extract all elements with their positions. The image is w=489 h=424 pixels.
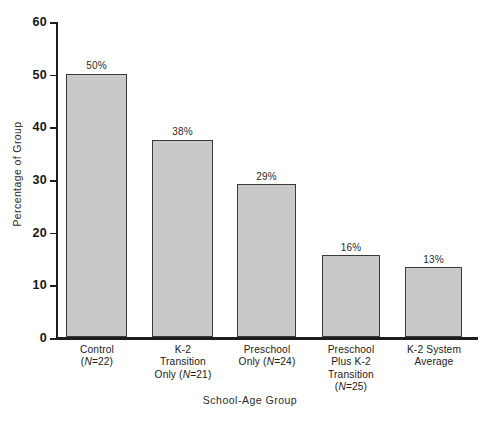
category-line: Transition — [305, 369, 397, 381]
category-line: Only (N=24) — [221, 356, 313, 368]
category-line: Preschool — [221, 344, 313, 356]
paren-rest: =24) — [274, 356, 295, 367]
category-line: (N=22) — [51, 356, 143, 368]
y-tick-0 — [50, 338, 56, 340]
category-label-preschool-plus-k2-transition: Preschool Plus K-2 Transition (N=25) — [305, 344, 397, 394]
y-tick-label-20: 20 — [32, 226, 47, 240]
bar-series: 50% 38% 29% 16% 13% — [56, 22, 478, 338]
bar-preschool-plus-k2-transition[interactable] — [322, 255, 380, 337]
category-label-k2-system-average: K-2 System Average — [388, 344, 480, 369]
bar-control[interactable] — [66, 74, 127, 337]
category-line: K-2 — [137, 344, 229, 356]
category-label-preschool-only: Preschool Only (N=24) — [221, 344, 313, 369]
y-tick-label-10: 10 — [32, 278, 47, 292]
paren-rest: =25) — [346, 381, 367, 392]
bar-chart: Percentage of Group 60 50 40 30 20 10 0 … — [0, 0, 489, 424]
bar-label-k2-system-average: 13% — [405, 254, 462, 265]
bar-preschool-only[interactable] — [237, 184, 296, 337]
y-tick-label-60: 60 — [32, 15, 47, 29]
n-italic: N — [84, 356, 92, 367]
paren-rest: =21) — [190, 369, 211, 380]
category-label-control: Control (N=22) — [51, 344, 143, 369]
category-line: Average — [388, 356, 480, 368]
bar-label-k2-transition-only: 38% — [152, 126, 213, 137]
category-line: Plus K-2 — [305, 356, 397, 368]
bar-k2-transition-only[interactable] — [152, 140, 213, 338]
y-tick-label-30: 30 — [32, 173, 47, 187]
bar-label-control: 50% — [66, 60, 127, 71]
x-axis-title: School-Age Group — [180, 394, 320, 406]
category-line: Control — [51, 344, 143, 356]
category-line: K-2 System — [388, 344, 480, 356]
category-line: (N=25) — [305, 381, 397, 393]
y-tick-label-0: 0 — [40, 331, 47, 345]
y-tick-label-50: 50 — [32, 68, 47, 82]
category-line: Transition — [137, 356, 229, 368]
n-italic: N — [338, 381, 346, 392]
y-axis-title: Percentage of Group — [11, 104, 23, 244]
paren-rest: =22) — [92, 356, 113, 367]
bar-k2-system-average[interactable] — [405, 267, 462, 337]
paren-open: Only ( — [155, 369, 183, 380]
category-line: Only (N=21) — [137, 369, 229, 381]
y-tick-label-40: 40 — [32, 120, 47, 134]
plot-area: 60 50 40 30 20 10 0 50% 38% 29% 16% 13% — [56, 22, 478, 338]
paren-open: Only ( — [239, 356, 267, 367]
bar-label-preschool-only: 29% — [237, 171, 296, 182]
category-label-k2-transition-only: K-2 Transition Only (N=21) — [137, 344, 229, 381]
bar-label-preschool-plus-k2-transition: 16% — [322, 242, 380, 253]
category-line: Preschool — [305, 344, 397, 356]
